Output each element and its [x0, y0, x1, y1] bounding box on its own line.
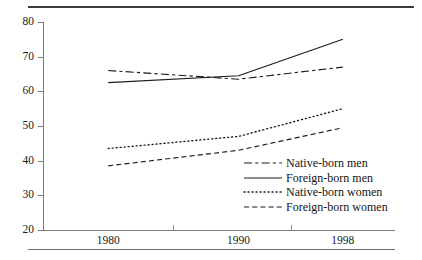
top-divider-rule: [28, 6, 414, 8]
legend-swatch-icon: [243, 186, 283, 198]
legend-item-label: Foreign-born women: [283, 200, 388, 214]
y-axis-label: 40: [8, 155, 34, 167]
x-axis-label: 1990: [209, 234, 269, 246]
x-axis-label: 1980: [78, 234, 138, 246]
legend-swatch-icon: [243, 172, 283, 184]
series-line: [108, 39, 343, 82]
x-axis-line: [43, 230, 395, 231]
legend-item-label: Foreign-born men: [283, 171, 373, 185]
legend-item-label: Native-born men: [283, 156, 368, 170]
y-axis-tick: [38, 161, 44, 162]
series-line: [108, 109, 343, 149]
y-axis-tick: [38, 57, 44, 58]
bottom-divider-rule: [28, 249, 395, 250]
y-axis-label: 70: [8, 51, 34, 63]
legend-item[interactable]: Foreign-born women: [243, 200, 415, 215]
x-axis-label: 1998: [313, 234, 373, 246]
legend-item[interactable]: Foreign-born men: [243, 171, 415, 186]
y-axis-tick: [38, 22, 44, 23]
series-plot-area: [0, 0, 422, 260]
chart-legend: Native-born menForeign-born menNative-bo…: [243, 156, 415, 214]
y-axis-tick: [38, 195, 44, 196]
y-axis-label: 20: [8, 224, 34, 236]
y-axis-tick: [38, 91, 44, 92]
y-axis-tick: [38, 126, 44, 127]
legend-item[interactable]: Native-born men: [243, 156, 415, 171]
y-axis-label: 60: [8, 85, 34, 97]
x-axis-tick: [173, 225, 174, 231]
figure-container: 20304050607080 198019901998 Native-born …: [0, 0, 422, 260]
y-axis-label: 50: [8, 120, 34, 132]
y-axis-tick: [38, 230, 44, 231]
x-axis-tick: [291, 225, 292, 231]
y-axis-label: 30: [8, 189, 34, 201]
legend-item-label: Native-born women: [283, 185, 382, 199]
series-line: [108, 67, 343, 79]
legend-swatch-icon: [243, 157, 283, 169]
legend-swatch-icon: [243, 201, 283, 213]
legend-item[interactable]: Native-born women: [243, 185, 415, 200]
y-axis-label: 80: [8, 16, 34, 28]
